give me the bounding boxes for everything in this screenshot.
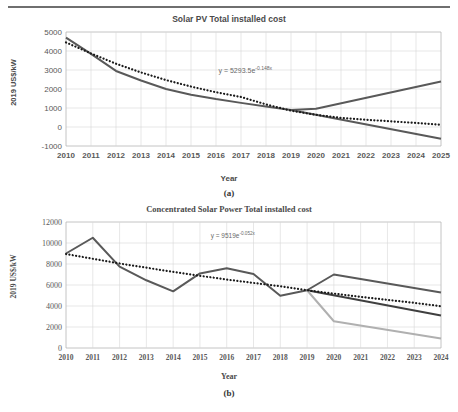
x-axis-tick-label: 2018 bbox=[273, 353, 288, 362]
x-axis-tick-label: 2012 bbox=[107, 151, 125, 160]
x-axis-tick-label: 2014 bbox=[157, 151, 175, 160]
y-axis-tick-label: 4000 bbox=[46, 302, 62, 311]
trendline-equation-base: y = 9519e bbox=[211, 233, 240, 240]
x-axis-tick-label: 2021 bbox=[332, 151, 350, 160]
data-series-line bbox=[307, 290, 441, 315]
x-axis-tick-label: 2013 bbox=[139, 353, 154, 362]
x-axis-tick-label: 2024 bbox=[434, 353, 449, 362]
data-series-line bbox=[66, 238, 307, 296]
x-axis-label-a: Year bbox=[0, 174, 458, 183]
x-axis-tick-label: 2023 bbox=[407, 353, 422, 362]
y-axis-tick-label: 0 bbox=[58, 344, 62, 353]
x-axis-tick-label: 2019 bbox=[282, 151, 300, 160]
trendline-equation: y = 9519e-0.052x bbox=[211, 231, 255, 239]
trendline-equation-exponent: -0.052x bbox=[239, 231, 255, 236]
x-axis-tick-label: 2011 bbox=[85, 353, 100, 362]
figure-a: Solar PV Total installed cost 2019 US$/k… bbox=[0, 10, 458, 202]
data-series-line bbox=[307, 275, 441, 293]
x-axis-tick-label: 2022 bbox=[380, 353, 395, 362]
x-axis-tick-label: 2022 bbox=[357, 151, 375, 160]
x-axis-tick-label: 2023 bbox=[382, 151, 400, 160]
y-axis-tick-label: 10000 bbox=[42, 239, 62, 248]
x-axis-tick-label: 2017 bbox=[246, 353, 261, 362]
x-axis-tick-label: 2017 bbox=[232, 151, 250, 160]
page-top-rule bbox=[8, 6, 450, 8]
chart-canvas-line bbox=[66, 222, 441, 348]
chart-canvas-line bbox=[66, 32, 441, 146]
y-axis-tick-label: 2000 bbox=[46, 323, 62, 332]
x-axis-tick-label: 2015 bbox=[182, 151, 200, 160]
figure-caption-b: (b) bbox=[0, 388, 458, 398]
y-axis-tick-label: 2000 bbox=[44, 85, 62, 94]
data-series-line bbox=[66, 42, 441, 124]
x-axis-tick-label: 2016 bbox=[207, 151, 225, 160]
x-axis-tick-label: 2020 bbox=[307, 151, 325, 160]
x-axis-tick-label: 2012 bbox=[112, 353, 127, 362]
x-axis-tick-label: 2016 bbox=[219, 353, 234, 362]
data-series-line bbox=[307, 290, 441, 338]
trendline-equation-base: y = 5293.5e bbox=[219, 68, 256, 75]
x-axis-tick-label: 2010 bbox=[57, 151, 75, 160]
x-axis-tick-label: 2020 bbox=[326, 353, 341, 362]
trendline-equation-exponent: -0.148x bbox=[255, 65, 272, 71]
y-axis-tick-label: 3000 bbox=[44, 66, 62, 75]
y-axis-tick-label: 0 bbox=[58, 123, 62, 132]
x-axis-tick-label: 2011 bbox=[82, 151, 99, 160]
x-axis-tick-label: 2013 bbox=[132, 151, 150, 160]
y-axis-tick-label: 12000 bbox=[42, 218, 62, 227]
y-axis-tick-label: 5000 bbox=[44, 28, 62, 37]
y-axis-tick-label: -1000 bbox=[42, 142, 62, 151]
x-axis-tick-label: 2014 bbox=[166, 353, 181, 362]
x-axis-tick-label: 2025 bbox=[432, 151, 450, 160]
plot-area-b: 1200010000800060004000200002010201120122… bbox=[66, 222, 441, 348]
x-axis-tick-label: 2018 bbox=[257, 151, 275, 160]
y-axis-label-b: 2019 US$/kW bbox=[9, 247, 18, 307]
chart-title-a: Solar PV Total installed cost bbox=[0, 14, 458, 24]
y-axis-tick-label: 4000 bbox=[44, 47, 62, 56]
x-axis-tick-label: 2015 bbox=[192, 353, 207, 362]
plot-area-a: 500040003000200010000-100020102011201220… bbox=[66, 32, 441, 146]
y-axis-tick-label: 8000 bbox=[46, 260, 62, 269]
x-axis-tick-label: 2010 bbox=[59, 353, 74, 362]
x-axis-label-b: Year bbox=[0, 372, 458, 381]
figure-page: Solar PV Total installed cost 2019 US$/k… bbox=[0, 0, 458, 412]
trendline-equation: y = 5293.5e-0.148x bbox=[219, 65, 273, 74]
x-axis-tick-label: 2024 bbox=[407, 151, 425, 160]
y-axis-tick-label: 1000 bbox=[44, 104, 62, 113]
x-axis-tick-label: 2021 bbox=[353, 353, 368, 362]
figure-caption-a: (a) bbox=[0, 188, 458, 198]
y-axis-label-a: 2019 US$/kW bbox=[9, 53, 18, 113]
x-axis-tick-label: 2019 bbox=[300, 353, 315, 362]
figure-b: Concentrated Solar Power Total installed… bbox=[0, 200, 458, 410]
chart-title-b: Concentrated Solar Power Total installed… bbox=[0, 204, 458, 214]
y-axis-tick-label: 6000 bbox=[46, 281, 62, 290]
